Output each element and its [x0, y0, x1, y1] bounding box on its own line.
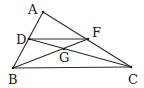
segment-BC [13, 67, 131, 68]
segments [13, 12, 131, 68]
point-D [28, 38, 31, 41]
vertices [12, 11, 133, 70]
label-B: B [8, 72, 18, 87]
label-F: F [92, 25, 101, 40]
point-A [42, 11, 45, 14]
point-C [130, 66, 133, 69]
point-F [87, 38, 90, 41]
label-C: C [128, 72, 138, 87]
label-A: A [27, 2, 38, 17]
point-B [12, 67, 15, 70]
geometry-figure: A D F G B C [0, 0, 144, 88]
label-G: G [59, 50, 69, 65]
segment-DC [29, 39, 131, 67]
label-D: D [16, 32, 26, 47]
